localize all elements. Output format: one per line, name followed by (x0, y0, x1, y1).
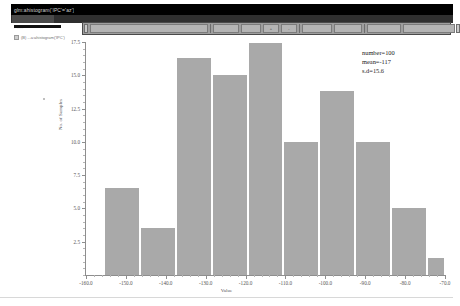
y-axis-minor-tick (83, 268, 85, 269)
x-axis-minor-tick (277, 275, 278, 277)
histogram-bar (356, 142, 390, 275)
window-titlebar: glm:ahistogram('IPC'='az') (11, 4, 453, 15)
sidebar-divider (14, 25, 61, 28)
y-axis-minor-tick (83, 248, 85, 249)
x-axis-minor-tick (429, 275, 430, 277)
y-axis-minor-tick (83, 155, 85, 156)
y-axis-tick-label: 10.0 (58, 139, 80, 145)
x-axis-tick (86, 275, 87, 279)
x-axis-tick-label: -160.0 (71, 280, 101, 286)
x-axis-minor-tick (373, 275, 374, 277)
pan-tool-button[interactable] (334, 24, 362, 33)
x-axis-minor-tick (198, 275, 199, 277)
file-new-button[interactable] (90, 24, 208, 33)
x-axis-minor-tick (317, 275, 318, 277)
histogram-bar (177, 58, 211, 275)
x-axis-tick-label: -80.0 (390, 280, 420, 286)
file-open-button[interactable] (213, 24, 239, 33)
stat-number: number=100 (362, 48, 395, 57)
y-axis-minor-tick (83, 89, 85, 90)
x-axis-minor-tick (349, 275, 350, 277)
x-axis-minor-tick (142, 275, 143, 277)
toolbar-grip[interactable] (84, 24, 88, 33)
y-axis-minor-tick (83, 275, 85, 276)
x-axis-tick (445, 275, 446, 279)
y-axis-tick-label: 5.0 (58, 205, 80, 211)
histogram-bar (392, 208, 426, 275)
y-axis-minor-tick (83, 122, 85, 123)
x-axis-minor-tick (389, 275, 390, 277)
y-axis-minor-tick (83, 195, 85, 196)
menu-selected-item[interactable]: Plots (12, 15, 54, 23)
y-axis-title: No. of Samples (58, 99, 63, 130)
y-axis-minor-tick (83, 202, 85, 203)
x-axis-minor-tick (174, 275, 175, 277)
x-axis-tick (206, 275, 207, 279)
x-axis-title: Value (0, 288, 453, 293)
toolbar-separator (210, 24, 211, 33)
y-axis-tick (82, 175, 86, 176)
tree-bullet-icon (14, 35, 19, 40)
histogram-bar (428, 258, 444, 275)
x-axis-tick (365, 275, 366, 279)
x-axis-minor-tick (94, 275, 95, 277)
toolbar-separator (299, 24, 300, 33)
histogram-bar (249, 43, 283, 275)
x-axis-tick (285, 275, 286, 279)
x-axis-minor-tick (230, 275, 231, 277)
toolbar-separator (364, 24, 365, 33)
y-axis-minor-tick (83, 102, 85, 103)
x-axis-minor-tick (118, 275, 119, 277)
x-axis-minor-tick (214, 275, 215, 277)
y-axis-tick (82, 109, 86, 110)
x-axis-tick-label: -140.0 (151, 280, 181, 286)
histogram-bar (105, 188, 139, 275)
histogram-bar (213, 75, 247, 275)
x-axis-minor-tick (190, 275, 191, 277)
y-axis-minor-tick (83, 135, 85, 136)
zoom-in-button[interactable]: + (263, 24, 279, 33)
x-axis-tick-label: -120.0 (231, 280, 261, 286)
x-axis-minor-tick (381, 275, 382, 277)
zoom-out-button[interactable]: - (281, 24, 297, 33)
stat-sd: s.d=15.6 (362, 66, 395, 75)
x-axis-tick-label: -130.0 (191, 280, 221, 286)
x-axis-minor-tick (254, 275, 255, 277)
properties-button[interactable] (367, 24, 401, 33)
x-axis-tick-label: -150.0 (111, 280, 141, 286)
y-axis-tick (82, 75, 86, 76)
x-axis-minor-tick (309, 275, 310, 277)
y-axis-minor-tick (83, 215, 85, 216)
x-axis-tick (126, 275, 127, 279)
x-axis-tick (166, 275, 167, 279)
x-axis-minor-tick (357, 275, 358, 277)
y-axis-minor-tick (83, 228, 85, 229)
print-button[interactable] (241, 24, 261, 33)
y-axis-tick-label: 17.5 (58, 39, 80, 45)
x-axis-tick-label: -100.0 (310, 280, 340, 286)
x-axis-minor-tick (397, 275, 398, 277)
y-axis-minor-tick (83, 69, 85, 70)
select-tool-button[interactable] (302, 24, 332, 33)
y-axis-minor-tick (83, 49, 85, 50)
y-axis-minor-tick (83, 168, 85, 169)
x-axis-tick (246, 275, 247, 279)
x-axis-minor-tick (293, 275, 294, 277)
x-axis-tick-label: -90.0 (350, 280, 380, 286)
x-axis-minor-tick (269, 275, 270, 277)
y-axis-minor-tick (83, 149, 85, 150)
x-axis-minor-tick (158, 275, 159, 277)
x-axis-tick-label: -110.0 (270, 280, 300, 286)
y-axis-minor-tick (83, 162, 85, 163)
x-axis-minor-tick (222, 275, 223, 277)
y-axis-minor-tick (83, 129, 85, 130)
export-button[interactable] (403, 24, 455, 33)
y-axis-tick-label: 15.0 (58, 72, 80, 78)
x-axis-tick-label: -70.0 (430, 280, 460, 286)
y-axis-minor-tick (83, 255, 85, 256)
histogram-bar (320, 91, 354, 275)
stat-mean: mean=-117 (362, 57, 395, 66)
toolbar: + - (82, 22, 451, 35)
toolbar-grip-right[interactable] (456, 24, 460, 33)
